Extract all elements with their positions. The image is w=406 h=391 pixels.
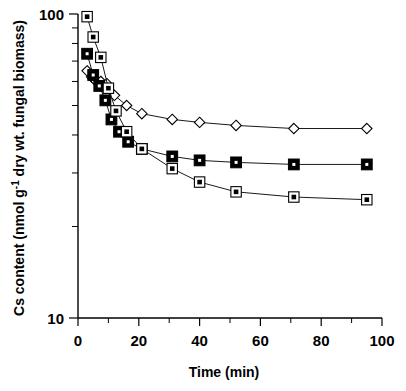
data-point-filled-square [231,157,242,168]
data-point-open-square-dot [289,192,299,202]
data-point-filled-square [361,159,372,170]
data-point-filled-square [100,95,111,106]
x-tick-label: 60 [252,332,269,349]
data-point-filled-square [194,155,205,166]
data-point-filled-square [88,70,99,81]
data-point-open-square-dot [96,52,106,62]
data-point-open-square-dot [137,144,147,154]
data-point-open-square-dot [231,187,241,197]
data-point-open-square-dot [194,177,204,187]
data-point-filled-square [288,159,299,170]
data-point-open-square-dot [362,194,372,204]
x-tick-label: 20 [130,332,147,349]
data-point-open-square-dot [82,11,92,21]
x-axis-title: Time (min) [189,364,260,380]
y-tick-label: 100 [39,6,64,23]
y-tick-label: 10 [47,310,64,327]
data-point-open-square-dot [111,106,121,116]
y-axis-title-suffix: dry wt. fungal biomass) [11,20,27,180]
data-point-open-square-dot [103,83,113,93]
y-axis-title: Cs content (nmol g-1 dry wt. fungal biom… [10,20,27,316]
x-tick-label: 80 [313,332,330,349]
x-tick-label: 0 [74,332,82,349]
data-point-open-square-dot [88,32,98,42]
x-tick-label: 40 [191,332,208,349]
y-axis-title-prefix: Cs content (nmol g [11,189,27,316]
data-point-filled-square [82,48,93,59]
chart-figure: 02040608010010100 Time (min) Cs content … [0,0,406,391]
data-point-open-square-dot [121,127,131,137]
data-point-open-square-dot [167,163,177,173]
cs-content-line-chart: 02040608010010100 Time (min) Cs content … [0,0,406,391]
x-tick-label: 100 [369,332,394,349]
data-point-filled-square [167,151,178,162]
